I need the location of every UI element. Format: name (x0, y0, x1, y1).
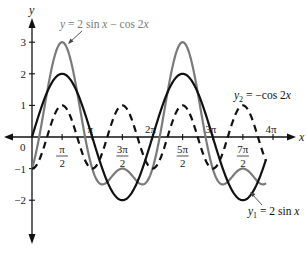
y-axis-up-arrow-icon (29, 18, 36, 28)
y-axis-label: y (28, 3, 35, 17)
y-tick-label: −2 (14, 194, 26, 206)
x-tick-label: 2 (180, 157, 186, 169)
origin-label: 0 (20, 141, 26, 153)
curves (32, 42, 266, 200)
y-tick-label: 3 (21, 36, 27, 48)
curve-series-1 (32, 42, 266, 184)
x-tick-label: π (59, 143, 65, 155)
x-tick-label: 3π (117, 143, 129, 155)
chart: x y π2π3π22π5π23π7π24π321−1−20 y = 2 sin… (0, 0, 307, 255)
svg-text:y = 2 sin x − cos 2x: y = 2 sin x − cos 2x (59, 18, 150, 31)
x-tick-label: 2 (240, 157, 246, 169)
x-tick-label: 7π (237, 143, 249, 155)
svg-text:y1 = 2 sin x: y1 = 2 sin x (247, 205, 300, 220)
y-axis-down-arrow-icon (29, 234, 36, 244)
svg-text:y2 = −cos 2x: y2 = −cos 2x (233, 89, 292, 104)
x-tick-label: 5π (177, 143, 189, 155)
y-tick-label: 2 (21, 68, 27, 80)
annotation-sum: y = 2 sin x − cos 2x (59, 18, 150, 44)
y-tick-label: −1 (14, 163, 26, 175)
annotation-y2: y2 = −cos 2x (233, 89, 292, 104)
x-tick-label: 4π (265, 123, 277, 135)
x-axis-label: x (298, 130, 305, 144)
x-tick-label: 2 (59, 157, 65, 169)
x-tick-label: 2 (120, 157, 126, 169)
y-tick-label: 1 (21, 99, 27, 111)
annotation-y1: y1 = 2 sin x (247, 192, 300, 220)
x-axis-right-arrow-icon (287, 134, 296, 141)
x-axis-left-arrow-icon (4, 134, 13, 141)
